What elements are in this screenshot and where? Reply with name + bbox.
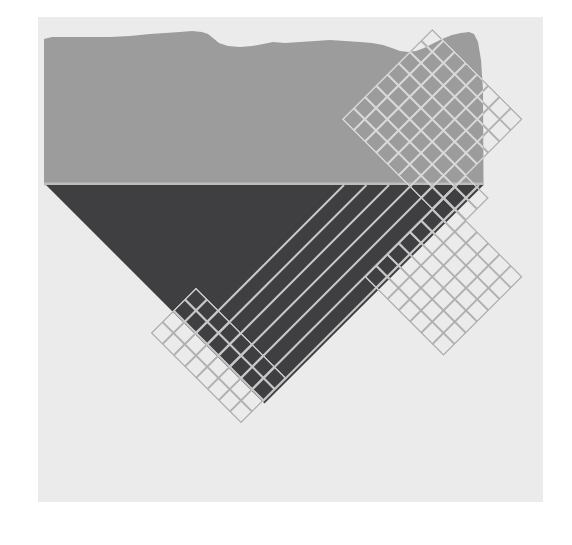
gray-band-shape bbox=[44, 31, 484, 185]
artwork-page bbox=[0, 0, 572, 545]
artwork-svg bbox=[0, 0, 572, 545]
